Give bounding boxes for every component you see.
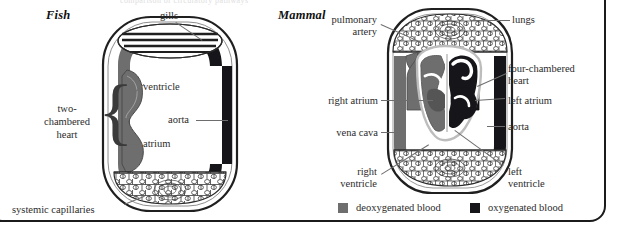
leader-aorta-fish xyxy=(196,120,228,121)
leader-lungs xyxy=(470,20,510,21)
gills-structure xyxy=(118,24,222,58)
leader-vena-cava xyxy=(381,132,403,133)
pulmonary-artery-line-1: pulmonary xyxy=(305,14,377,26)
mammal-label-right-ventricle: right ventricle xyxy=(305,166,377,190)
four-chambered-heart-line-1: four-chambered xyxy=(508,63,575,75)
right-ventricle-line-1: right xyxy=(305,166,377,178)
figure-page: comparison of circulatory pathways Fish xyxy=(0,0,622,235)
right-ventricle-line-2: ventricle xyxy=(305,178,377,190)
mammal-label-left-ventricle: left ventricle xyxy=(508,166,545,190)
two-chambered-heart-line-3: heart xyxy=(36,128,98,141)
mammal-label-aorta-mammal: aorta xyxy=(508,121,529,133)
fish-label-gills: gills xyxy=(160,10,178,22)
left-ventricle-line-2: ventricle xyxy=(508,178,545,190)
leader-aorta-mammal xyxy=(487,126,505,127)
fish-panel-title: Fish xyxy=(46,8,70,23)
fish-label-atrium: atrium xyxy=(143,138,170,150)
legend-label-deoxygenated: deoxygenated blood xyxy=(356,202,441,214)
mammal-label-vena-cava: vena cava xyxy=(300,127,378,139)
mammal-label-four-chambered-heart: four-chambered heart xyxy=(508,63,575,87)
two-chambered-heart-brace: { xyxy=(98,74,134,148)
mammal-label-lungs: lungs xyxy=(512,14,535,26)
fish-label-aorta: aorta xyxy=(168,114,189,126)
four-chambered-heart-line-2: heart xyxy=(508,75,575,87)
cut-off-caption: comparison of circulatory pathways xyxy=(120,0,248,5)
mammal-label-left-atrium: left atrium xyxy=(508,95,552,107)
fish-label-two-chambered-heart: two- chambered heart xyxy=(36,102,98,141)
mammal-label-right-atrium: right atrium xyxy=(300,95,378,107)
fish-label-ventricle: ventricle xyxy=(143,81,180,93)
two-chambered-heart-line-1: two- xyxy=(36,102,98,115)
mammal-label-pulmonary-artery: pulmonary artery xyxy=(305,14,377,38)
fish-label-systemic-capillaries: systemic capillaries xyxy=(12,204,95,216)
pulmonary-artery-line-2: artery xyxy=(305,26,377,38)
leader-right-atrium xyxy=(381,100,433,101)
two-chambered-heart-line-2: chambered xyxy=(36,115,98,128)
deoxygenated-swatch xyxy=(338,203,348,213)
oxygenated-swatch xyxy=(470,203,480,213)
legend-label-oxygenated: oxygenated blood xyxy=(488,202,563,214)
left-ventricle-line-1: left xyxy=(508,166,545,178)
